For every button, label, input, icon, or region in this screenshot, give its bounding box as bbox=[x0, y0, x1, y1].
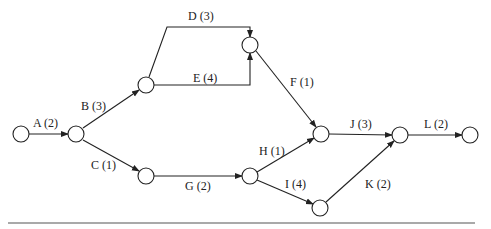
event-node-4 bbox=[242, 37, 258, 53]
activity-f-arrow bbox=[256, 51, 316, 127]
event-node-8 bbox=[312, 200, 328, 216]
event-node-3 bbox=[138, 77, 154, 93]
label-c: C (1) bbox=[91, 158, 116, 172]
label-b: B (3) bbox=[81, 99, 106, 113]
event-node-9 bbox=[392, 127, 408, 143]
label-i: I (4) bbox=[285, 177, 306, 191]
activity-d-arrow bbox=[149, 27, 250, 77]
label-k: K (2) bbox=[365, 177, 391, 191]
label-h: H (1) bbox=[259, 144, 285, 158]
event-node-7 bbox=[313, 126, 329, 142]
activity-j-arrow bbox=[329, 134, 392, 135]
label-l: L (2) bbox=[424, 117, 448, 131]
label-a: A (2) bbox=[33, 116, 58, 130]
event-node-2 bbox=[68, 126, 84, 142]
label-e: E (4) bbox=[193, 71, 217, 85]
activity-k-arrow bbox=[326, 141, 394, 202]
event-node-6 bbox=[242, 168, 258, 184]
label-g: G (2) bbox=[185, 179, 211, 193]
event-node-5 bbox=[138, 168, 154, 184]
label-f: F (1) bbox=[290, 75, 314, 89]
event-node-1 bbox=[13, 126, 29, 142]
event-node-10 bbox=[462, 127, 478, 143]
label-d: D (3) bbox=[188, 9, 214, 23]
network-diagram: A (2) B (3) C (1) D (3) E (4) F (1) G (2… bbox=[0, 0, 491, 229]
label-j: J (3) bbox=[350, 117, 372, 131]
